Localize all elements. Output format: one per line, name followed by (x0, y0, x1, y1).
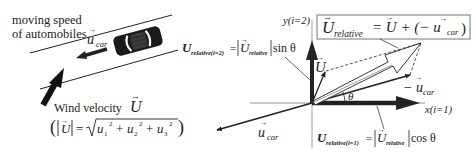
car-velocity-label: u (87, 32, 94, 47)
x-axis-label: x(i=1) (424, 104, 452, 116)
diagram-canvas: moving speed of automobiles u → car Wind… (0, 0, 475, 156)
eq-rhs-subscript: car (447, 27, 459, 37)
vector-arrow-mark: → (414, 73, 422, 82)
vector-arrow-mark: → (131, 91, 140, 101)
xcomp-abs-subscript: relative (386, 140, 405, 146)
relative-wind-diagram: moving speed of automobiles u → car Wind… (0, 0, 475, 156)
svg-text:2: 2 (109, 120, 113, 128)
svg-text:u: u (127, 121, 134, 136)
svg-text:u: u (97, 121, 104, 136)
equation-leader-line (380, 39, 398, 48)
vector-arrow-mark: → (323, 12, 332, 22)
svg-text:u: u (157, 121, 164, 136)
vector-arrow-mark: → (316, 53, 324, 62)
wind-arrow-icon (43, 68, 64, 105)
vector-arrow-mark: → (385, 13, 393, 22)
relative-velocity-equation-box: U → relative = U + (− u → → car ) (317, 12, 470, 39)
wind-velocity-label: Wind velocity (54, 101, 122, 115)
road-label-line2: of automobiles (12, 27, 87, 41)
relative-velocity-hollow-arrow (313, 43, 421, 105)
car-direction-arrow-icon (76, 49, 107, 59)
vector-arrow-mark: → (241, 36, 248, 44)
eq-lhs-subscript: relative (334, 29, 363, 39)
xcomp-equals: = (366, 132, 372, 144)
svg-text:+: + (116, 121, 123, 136)
svg-text:2: 2 (139, 120, 143, 128)
ycomp-trig: sin θ (273, 41, 296, 55)
svg-text:+: + (146, 121, 153, 136)
road-label-line1: moving speed (12, 13, 83, 27)
svg-text:2: 2 (169, 120, 173, 128)
car-velocity-subscript: car (96, 39, 108, 49)
svg-text:2: 2 (134, 130, 138, 138)
ycomp-abs-subscript: relative (249, 50, 268, 56)
close-paren: ) (178, 117, 184, 138)
svg-text:1: 1 (104, 130, 108, 138)
vector-arrow-mark: → (88, 25, 96, 34)
vector-arrow-mark: → (439, 14, 447, 23)
ycomp-subscript: relative(i=2) (191, 49, 224, 57)
left-panel: moving speed of automobiles u → car Wind… (12, 13, 184, 138)
car-vector-label: u (258, 125, 265, 140)
vector-arrow-mark: → (259, 118, 267, 127)
vector-arrow-mark: → (378, 126, 385, 134)
svg-text:→: → (61, 117, 68, 125)
y-axis-label: y(i=2) (282, 15, 310, 27)
xcomp-trig: cos θ (411, 131, 436, 145)
svg-text:=: = (76, 121, 83, 136)
ycomp-leader-line (285, 57, 310, 80)
open-paren: ( (50, 117, 56, 138)
eq-rhs: = U + (− u (372, 19, 441, 36)
xcomp-subscript: relative(i=1) (326, 139, 359, 147)
eq-close-paren: ) (461, 20, 466, 37)
neg-car-vector-label: − u (403, 80, 423, 95)
svg-text:3: 3 (164, 130, 168, 138)
angle-theta-label: θ (348, 90, 354, 102)
y-component-label: U relative(i=2) = U → relative sin θ (182, 36, 296, 57)
ycomp-equals: = (230, 42, 236, 54)
right-panel: θ y(i=2) x(i=1) U → − u → car u → car U … (182, 12, 470, 148)
neg-car-vector-subscript: car (423, 87, 435, 97)
car-vector-subscript: car (267, 132, 279, 142)
car-icon (112, 25, 164, 57)
wind-magnitude-formula: ( U → = u 1 2 + u 2 2 + u 3 2 ) (50, 117, 184, 138)
x-component-label: U relative(i=1) = U → relative cos θ (317, 126, 436, 147)
